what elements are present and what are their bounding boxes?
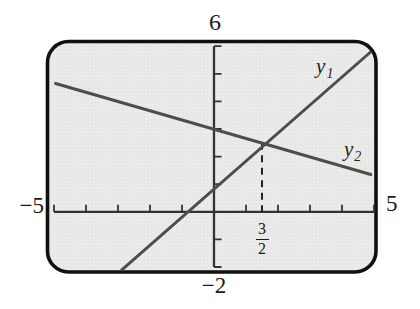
y1-label-base: y	[316, 54, 325, 78]
y1-label-subscript: 1	[326, 66, 333, 81]
ymin-label: −2	[192, 274, 236, 297]
y2-label-subscript: 2	[354, 149, 361, 164]
intersection-x-fraction: 3 2	[251, 221, 273, 258]
xmin-label: −5	[12, 194, 44, 217]
ymax-label: 6	[204, 10, 226, 34]
fraction-denominator: 2	[258, 241, 266, 258]
y2-label: y2	[344, 139, 360, 160]
y2-label-base: y	[344, 137, 353, 161]
fraction-numerator: 3	[258, 221, 266, 238]
xmax-label: 5	[386, 192, 406, 215]
figure: 6 −5 5 −2 y1 y2 3 2	[0, 0, 420, 309]
y1-label: y1	[316, 56, 332, 77]
